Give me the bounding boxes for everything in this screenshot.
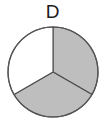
pie-chart-svg bbox=[0, 0, 105, 125]
pie-chart-figure: D bbox=[0, 0, 105, 125]
